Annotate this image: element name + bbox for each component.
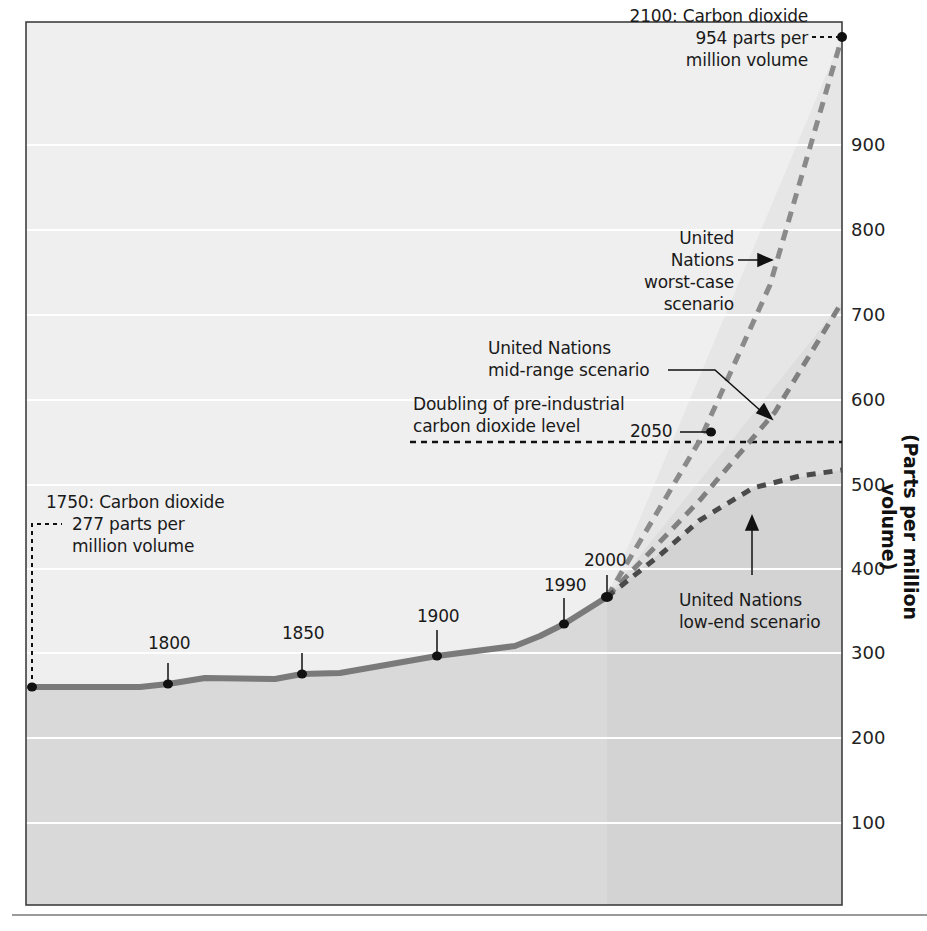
worst-label-line1: United [620, 228, 734, 248]
year-1900-label: 1900 [417, 606, 459, 626]
bottom-rule [12, 914, 927, 916]
y-tick-900: 900 [851, 135, 885, 155]
y-tick-700: 700 [851, 305, 885, 325]
end-label-line2: 954 parts per [560, 28, 808, 48]
year-2050-label: 2050 [630, 421, 672, 441]
end-label-line1: 2100: Carbon dioxide [560, 6, 808, 26]
y-tick-800: 800 [851, 220, 885, 240]
low-label-line2: low-end scenario [679, 612, 820, 632]
low-label-line1: United Nations [679, 590, 802, 610]
start-label-line3: million volume [72, 536, 194, 556]
co2-chart [0, 0, 927, 931]
y-tick-200: 200 [851, 728, 885, 748]
y-axis-title: (Parts per million volume) [878, 397, 922, 657]
doubling-label-line1: Doubling of pre-industrial [413, 394, 625, 414]
y-tick-100: 100 [851, 813, 885, 833]
mid-label-line1: United Nations [488, 338, 611, 358]
start-label-line2: 277 parts per [72, 514, 185, 534]
year-1850-label: 1850 [282, 623, 324, 643]
start-label-line1: 1750: Carbon dioxide [46, 492, 224, 512]
worst-label-line2: Nations [620, 250, 734, 270]
year-1800-label: 1800 [148, 633, 190, 653]
year-2000-label: 2000 [584, 550, 626, 570]
end-label-line3: million volume [560, 50, 808, 70]
year-1990-label: 1990 [544, 575, 586, 595]
mid-label-line2: mid-range scenario [488, 360, 649, 380]
worst-label-line3: worst-case [620, 272, 734, 292]
doubling-label-line2: carbon dioxide level [413, 416, 580, 436]
worst-label-line4: scenario [620, 294, 734, 314]
